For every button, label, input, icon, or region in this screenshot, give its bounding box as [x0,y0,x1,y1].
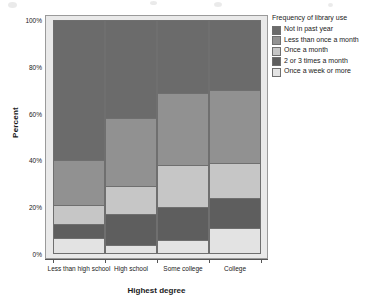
bar-segment[interactable] [157,240,209,254]
y-axis-tick-label: 0% [8,251,42,258]
legend-swatch-icon [272,36,281,45]
bar-segment[interactable] [209,198,261,228]
legend-item[interactable]: 2 or 3 times a month [272,57,370,67]
bar-segment[interactable] [105,186,157,214]
bar-college[interactable] [209,20,261,254]
bar-segment[interactable] [157,20,209,93]
bar-segment[interactable] [209,20,261,90]
bar-high-school[interactable] [105,20,157,254]
stacked-bar-chart: Percent 0%20%40%60%80%100% Highest degre… [0,0,370,301]
legend-item[interactable]: Not in past year [272,25,370,35]
legend-item[interactable]: Less than once a month [272,36,370,46]
bar-segment[interactable] [53,160,105,204]
legend-item-label: Not in past year [284,25,333,33]
legend-swatch-icon [272,57,281,66]
legend-item-label: Once a month [284,46,328,54]
bar-segment[interactable] [105,20,157,118]
scan-artifact [214,2,222,7]
legend-item-label: 2 or 3 times a month [284,57,348,65]
legend-item-label: Once a week or more [284,67,351,75]
x-axis-tick-mark [53,259,54,263]
bar-less-than-high-school[interactable] [53,20,105,254]
bar-segment[interactable] [209,228,261,254]
scan-artifact [328,3,333,7]
x-axis-tick-mark [209,259,210,263]
bar-segment[interactable] [105,214,157,244]
bar-segment[interactable] [53,20,105,160]
bar-segment[interactable] [157,207,209,240]
y-axis-tick-label: 60% [8,110,42,117]
legend-swatch-icon [272,47,281,56]
bar-segment[interactable] [157,93,209,166]
legend-item-label: Less than once a month [284,36,359,44]
legend-swatch-icon [272,26,281,35]
legend-item[interactable]: Once a week or more [272,67,370,77]
y-axis-tick-label: 100% [8,17,42,24]
x-axis-tick-mark [157,259,158,263]
bar-segment[interactable] [53,224,105,238]
legend: Frequency of library use Not in past yea… [272,14,370,78]
legend-items: Not in past yearLess than once a monthOn… [272,25,370,77]
bar-segment[interactable] [209,163,261,198]
y-axis-ticks: 0%20%40%60%80%100% [4,0,42,301]
bar-segment[interactable] [157,165,209,207]
y-axis-tick-label: 40% [8,157,42,164]
x-axis-tick-mark [105,259,106,263]
bars-container [53,20,262,254]
x-axis-title: Highest degree [45,286,268,295]
bar-segment[interactable] [209,90,261,163]
scan-artifact [150,1,157,5]
bar-segment[interactable] [53,238,105,254]
x-axis-tick-label: College [203,265,267,273]
bar-some-college[interactable] [157,20,209,254]
bar-segment[interactable] [53,205,105,224]
y-axis-tick-label: 20% [8,204,42,211]
x-axis-tick-mark [261,259,262,263]
bar-segment[interactable] [105,245,157,254]
legend-swatch-icon [272,68,281,77]
bar-segment[interactable] [105,118,157,186]
legend-item[interactable]: Once a month [272,46,370,56]
legend-title: Frequency of library use [272,14,370,22]
y-axis-tick-label: 80% [8,63,42,70]
